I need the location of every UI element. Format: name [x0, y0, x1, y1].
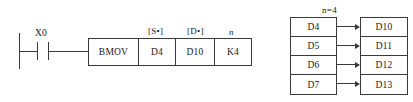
transfer-arrow-line: [337, 83, 355, 84]
source-register-cell: D4: [291, 18, 336, 37]
destination-register-column: D10 D11 D12 D13: [360, 17, 408, 95]
source-register-cell: D5: [291, 37, 336, 56]
destination-register-cell: D10: [361, 18, 407, 37]
transfer-arrow-line: [337, 26, 355, 27]
source-register-cell: D7: [291, 75, 336, 94]
transfer-arrow-head: [355, 81, 360, 87]
transfer-arrow-head: [355, 43, 360, 49]
destination-register-cell: D11: [361, 37, 407, 56]
destination-register-cell: D12: [361, 56, 407, 75]
operand-tag-count: n: [229, 27, 234, 37]
source-register-cell: D6: [291, 56, 336, 75]
instruction-cell-source: D4: [139, 39, 176, 65]
rung-wire-left: [19, 51, 37, 52]
transfer-count-label: n=4: [322, 5, 337, 15]
source-register-column: D4 D5 D6 D7: [290, 17, 337, 95]
contact-bar-left: [37, 42, 38, 60]
contact-label-x0: X0: [35, 28, 47, 38]
instruction-cell-count: K4: [215, 39, 251, 65]
operand-tag-source: [S•]: [148, 26, 163, 36]
destination-register-cell: D13: [361, 75, 407, 94]
rung-wire-right: [48, 51, 88, 52]
instruction-box[interactable]: BMOV D4 D10 K4: [88, 38, 252, 66]
transfer-arrow-line: [337, 45, 355, 46]
transfer-arrow-head: [355, 24, 360, 30]
instruction-cell-destination: D10: [176, 39, 215, 65]
operand-tag-destination: [D•]: [187, 26, 204, 36]
ladder-diagram-canvas: X0 [S•] [D•] n BMOV D4 D10 K4 n=4 D4 D5 …: [0, 0, 413, 102]
transfer-arrow-head: [355, 62, 360, 68]
instruction-cell-operation: BMOV: [89, 39, 139, 65]
transfer-arrow-line: [337, 64, 355, 65]
